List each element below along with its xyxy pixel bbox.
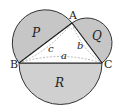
label-region-r: R xyxy=(54,76,64,90)
triangle-semicircles-diagram: A B C P Q R c b a xyxy=(0,0,119,112)
label-vertex-a: A xyxy=(68,9,78,22)
label-vertex-b: B xyxy=(10,58,18,71)
label-region-p: P xyxy=(31,26,41,40)
label-side-b: b xyxy=(77,40,83,51)
label-region-q: Q xyxy=(92,29,102,43)
label-vertex-c: C xyxy=(104,58,112,71)
label-side-a: a xyxy=(61,50,67,61)
label-side-c: c xyxy=(48,43,54,54)
